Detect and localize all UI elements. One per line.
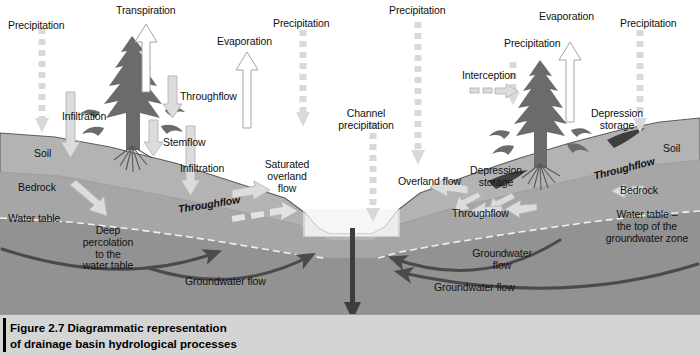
label-precipitation-midright: Precipitation (389, 5, 445, 17)
label-bedrock-left: Bedrock (18, 182, 56, 194)
label-saturated-overland-flow: Saturated overland flow (255, 159, 319, 194)
label-stemflow: Stemflow (163, 137, 205, 149)
label-bedrock-right: Bedrock (620, 185, 658, 197)
label-precipitation-tree-right: Precipitation (504, 38, 560, 50)
caption-line-2: of drainage basin hydrological processes (10, 337, 310, 353)
label-water-table-left: Water table (8, 213, 60, 225)
label-precipitation-mid: Precipitation (273, 18, 329, 30)
figure-caption-bar: Figure 2.7 Diagrammatic representation o… (0, 314, 700, 355)
label-infiltration-2: Infiltration (180, 163, 224, 175)
label-throughflow-tree: Throughflow (180, 91, 237, 103)
label-groundwater-flow-right: Groundwater flow (434, 282, 515, 294)
label-groundwater-flow-left: Groundwater flow (185, 276, 266, 288)
hydrological-cycle-diagram: Precipitation Transpiration Evaporation … (0, 0, 700, 355)
label-groundwater-flow-mid: Groundwater flow (466, 248, 538, 272)
label-soil-right: Soil (663, 143, 680, 155)
label-overland-flow: Overland flow (398, 176, 461, 188)
label-throughflow-right-low: Throughflow (452, 208, 509, 220)
label-water-table-right: Water table – the top of the groundwater… (598, 209, 696, 244)
label-infiltration-1: Infiltration (62, 111, 106, 123)
label-evaporation-left: Evaporation (217, 36, 272, 48)
label-transpiration: Transpiration (116, 5, 176, 17)
label-deep-percolation: Deep percolation to the water table (72, 225, 144, 272)
label-precipitation-left: Precipitation (8, 20, 64, 32)
label-interception: Interception (462, 70, 516, 82)
figure-caption: Figure 2.7 Diagrammatic representation o… (10, 321, 310, 352)
label-soil-left: Soil (34, 148, 51, 160)
caption-rule (3, 318, 6, 352)
interception-dash-2 (483, 88, 492, 93)
label-evaporation-right: Evaporation (539, 11, 594, 23)
label-channel-precipitation: Channel precipitation (330, 108, 402, 132)
label-precipitation-right: Precipitation (620, 18, 676, 30)
label-depression-storage-right: Depression storage (584, 108, 650, 132)
label-depression-storage-left: Depression storage (462, 165, 530, 189)
caption-line-1: Figure 2.7 Diagrammatic representation (10, 321, 310, 337)
interception-dash-1 (470, 88, 479, 93)
